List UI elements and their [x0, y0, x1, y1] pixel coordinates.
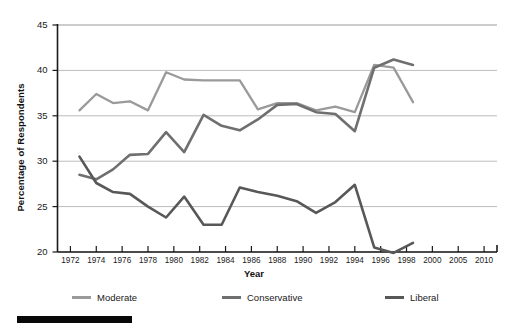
- x-axis-tick-label: 2000: [418, 256, 446, 265]
- x-axis-tick-label: 2005: [444, 256, 472, 265]
- legend-label: Conservative: [247, 292, 302, 303]
- legend-swatch-icon: [222, 296, 241, 299]
- line-chart: Percentage of Respondents 202530354045 1…: [0, 0, 508, 328]
- x-axis-title: Year: [0, 268, 508, 279]
- y-axis-tick-label: 40: [22, 64, 48, 75]
- y-axis-tick-label: 45: [22, 19, 48, 30]
- x-axis-tick-label: 1980: [160, 256, 188, 265]
- x-axis-tick-label: 1990: [289, 256, 317, 265]
- x-axis-tick-label: 1976: [108, 256, 136, 265]
- x-axis-tick-label: 1998: [393, 256, 421, 265]
- y-axis-tick-label: 30: [22, 155, 48, 166]
- x-axis-tick-label: 1978: [134, 256, 162, 265]
- y-axis-tick-label: 25: [22, 201, 48, 212]
- legend-item-liberal[interactable]: Liberal: [385, 292, 439, 303]
- legend-swatch-icon: [385, 296, 404, 299]
- x-axis-tick-label: 1994: [341, 256, 369, 265]
- x-axis-tick-label: 1988: [263, 256, 291, 265]
- x-axis-tick-label: 1992: [315, 256, 343, 265]
- x-axis-tick-label: 1982: [186, 256, 214, 265]
- x-axis-tick-label: 1984: [212, 256, 240, 265]
- series-line-liberal: [79, 157, 413, 253]
- x-axis-tick-label: 2010: [470, 256, 498, 265]
- x-axis-tick-label: 1996: [367, 256, 395, 265]
- y-axis-tick-label: 20: [22, 246, 48, 257]
- legend-swatch-icon: [72, 296, 91, 299]
- legend-label: Liberal: [410, 292, 439, 303]
- plot-area: [0, 0, 508, 290]
- legend-item-conservative[interactable]: Conservative: [222, 292, 302, 303]
- legend-label: Moderate: [97, 292, 137, 303]
- bottom-black-bar: [17, 316, 132, 323]
- x-axis-tick-label: 1974: [82, 256, 110, 265]
- x-axis-tick-label: 1986: [237, 256, 265, 265]
- y-axis-tick-label: 35: [22, 110, 48, 121]
- chart-legend: ModerateConservativeLiberal: [0, 292, 508, 312]
- legend-item-moderate[interactable]: Moderate: [72, 292, 137, 303]
- x-axis-tick-label: 1972: [56, 256, 84, 265]
